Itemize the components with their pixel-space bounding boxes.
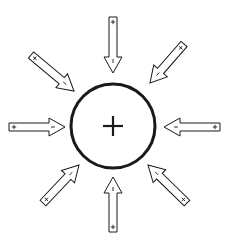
- arrow-shape: [9, 118, 65, 136]
- electric-field-diagram: +: [0, 0, 232, 246]
- arrow-top-left: [25, 48, 80, 98]
- arrow-shape: [164, 118, 220, 136]
- arrow-shape: [142, 159, 194, 210]
- charge-plus-sign: +: [0, 0, 123, 136]
- arrow-shape: [143, 38, 191, 89]
- arrow-bottom-right: [142, 159, 194, 210]
- arrow-shape: [104, 17, 122, 73]
- arrow-shape: [104, 177, 122, 232]
- arrow-top-right: [143, 38, 191, 89]
- arrow-group: [9, 17, 220, 232]
- arrow-right: [164, 118, 220, 136]
- arrow-bottom: [104, 177, 122, 232]
- arrow-bottom-left: [36, 159, 85, 209]
- arrow-left: [9, 118, 65, 136]
- arrow-shape: [36, 159, 85, 209]
- arrow-top: [104, 17, 122, 73]
- arrow-shape: [25, 48, 80, 98]
